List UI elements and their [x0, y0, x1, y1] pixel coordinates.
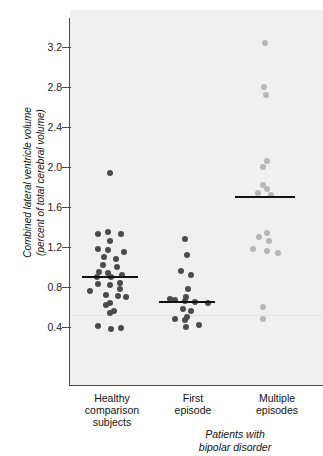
group3-line-2: episodes: [232, 404, 322, 416]
median-bar: [82, 276, 138, 278]
data-point: [100, 262, 106, 268]
data-point: [188, 272, 194, 278]
data-point: [113, 256, 119, 262]
data-point: [107, 170, 113, 176]
x-axis-line: [69, 385, 323, 386]
group1-line-3: subjects: [62, 416, 162, 428]
data-point: [107, 238, 113, 244]
y-tick-mark: [62, 247, 71, 248]
y-tick-mark: [62, 127, 71, 128]
note-line-2: bipolar disorder: [150, 441, 320, 454]
figure-scatter-plot: 3.22.82.42.01.61.20.80.4 Combined latera…: [0, 0, 323, 456]
data-point: [118, 325, 124, 331]
data-point: [121, 249, 127, 255]
x-axis-group-label-healthy: Healthy comparison subjects: [62, 392, 162, 428]
y-tick-mark: [62, 287, 71, 288]
y-axis-title: Combined lateral ventricle volume (perce…: [22, 83, 47, 283]
y-axis-title-line-2: (percent of total cerebral volume): [34, 83, 47, 283]
data-point: [260, 164, 266, 170]
note-line-1: Patients with: [150, 428, 320, 441]
data-point: [105, 247, 111, 253]
median-bar: [159, 301, 215, 303]
y-tick-label-wrap: 0.8: [0, 282, 62, 292]
group2-line-2: episode: [148, 404, 238, 416]
data-point: [275, 250, 281, 256]
y-tick-mark: [62, 167, 71, 168]
data-point: [264, 158, 270, 164]
y-tick-label-wrap: 0.4: [0, 322, 62, 332]
median-bar: [235, 196, 295, 198]
x-axis-group-label-first-episode: First episode: [148, 392, 238, 416]
data-point: [108, 326, 114, 332]
data-point: [178, 268, 184, 274]
data-point: [107, 282, 113, 288]
data-point: [184, 252, 190, 258]
y-tick-mark: [62, 47, 71, 48]
data-point: [107, 310, 113, 316]
y-tick-mark: [62, 327, 71, 328]
y-axis-title-line-1: Combined lateral ventricle volume: [22, 83, 35, 283]
y-axis-line: [69, 18, 70, 385]
data-point: [182, 236, 188, 242]
y-tick-mark: [62, 87, 71, 88]
group1-line-1: Healthy: [62, 392, 162, 404]
cropped-header-text: [62, 0, 252, 7]
y-tick-mark: [62, 207, 71, 208]
data-point: [118, 231, 124, 237]
data-point: [256, 234, 262, 240]
y-tick-label: 3.2: [36, 42, 62, 52]
data-point: [196, 322, 202, 328]
y-tick-label: 0.8: [36, 282, 62, 292]
data-point: [183, 324, 189, 330]
group2-line-1: First: [148, 392, 238, 404]
data-point: [87, 288, 93, 294]
data-point: [95, 246, 101, 252]
y-tick-label-wrap: 3.2: [0, 42, 62, 52]
data-point: [261, 84, 267, 90]
group3-line-1: Multiple: [232, 392, 322, 404]
x-axis-group-label-multiple-episodes: Multiple episodes: [232, 392, 322, 416]
y-tick-label: 0.4: [36, 322, 62, 332]
patient-group-note: Patients with bipolar disorder: [150, 428, 320, 453]
group1-line-2: comparison: [62, 404, 162, 416]
data-point: [264, 186, 270, 192]
